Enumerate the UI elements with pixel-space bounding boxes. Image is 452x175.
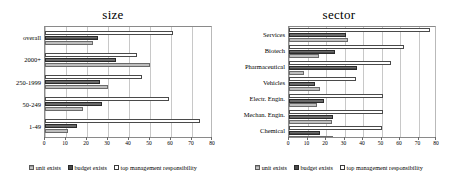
legend-label: top management responsibility [120, 164, 196, 171]
bar-group [45, 93, 211, 115]
bar-group [289, 76, 435, 92]
x-axis-sector: 01020304050607080 [288, 140, 436, 150]
legend-swatch-budget-icon [294, 165, 299, 170]
bar-budget-exists [45, 80, 100, 84]
bar-unit-exists [289, 87, 320, 91]
bar-groups-size [45, 27, 211, 137]
two-panel-bar-chart-figure: size overall2000+250-199950-2491-49 0102… [0, 0, 452, 175]
x-axis-tick-label: 50 [378, 140, 384, 146]
bar-budget-exists [45, 102, 102, 106]
bar-group [45, 115, 211, 137]
bar-budget-exists [45, 36, 98, 40]
legend-swatch-unit-icon [255, 165, 260, 170]
bar-top-management-responsibility [45, 31, 173, 35]
bar-unit-exists [289, 136, 333, 138]
x-axis-tick-label: 10 [62, 140, 68, 146]
category-label: Vehicles [226, 74, 288, 90]
legend-item-top: top management responsibility [114, 164, 197, 171]
plot-area-size [44, 26, 212, 138]
bar-top-management-responsibility [45, 97, 169, 101]
legend-size: unit existsbudget existstop management r… [0, 164, 226, 171]
bar-groups-sector [289, 27, 435, 137]
legend-label: unit exists [262, 164, 287, 171]
category-label: Electr. Engin. [226, 90, 288, 106]
bar-budget-exists [45, 124, 77, 128]
legend-item-unit: unit exists [255, 164, 287, 171]
x-axis-tick-label: 30 [104, 140, 110, 146]
legend-sector: unit existsbudget existstop management r… [226, 164, 452, 171]
legend-item-top: top management responsibility [340, 164, 423, 171]
bar-unit-exists [289, 120, 332, 124]
bar-top-management-responsibility [289, 94, 383, 98]
category-label: Mechan. Engin. [226, 106, 288, 122]
bar-group [289, 109, 435, 125]
bar-group [45, 49, 211, 71]
bar-budget-exists [289, 115, 333, 119]
category-label: 250-1999 [0, 71, 44, 93]
bar-group [289, 43, 435, 59]
bar-budget-exists [289, 82, 315, 86]
bar-unit-exists [45, 129, 68, 133]
bar-budget-exists [289, 66, 357, 70]
bar-top-management-responsibility [45, 53, 137, 57]
legend-item-unit: unit exists [29, 164, 61, 171]
bar-top-management-responsibility [289, 61, 391, 65]
plot-wrap-size: overall2000+250-199950-2491-49 010203040… [0, 26, 226, 144]
bar-budget-exists [289, 99, 324, 103]
x-axis-tick-label: 40 [125, 140, 131, 146]
legend-swatch-top-icon [114, 165, 119, 170]
category-label: 1-49 [0, 116, 44, 138]
bar-budget-exists [45, 58, 116, 62]
category-axis-labels-size: overall2000+250-199950-2491-49 [0, 26, 44, 138]
bar-top-management-responsibility [45, 119, 200, 123]
legend-item-budget: budget exists [294, 164, 333, 171]
panel-title-size: size [0, 6, 226, 24]
bar-unit-exists [45, 41, 93, 45]
bar-budget-exists [289, 33, 346, 37]
x-axis-tick-label: 20 [322, 140, 328, 146]
legend-swatch-top-icon [340, 165, 345, 170]
bar-group [45, 71, 211, 93]
panel-size: size overall2000+250-199950-2491-49 0102… [0, 0, 226, 175]
bar-top-management-responsibility [289, 28, 430, 32]
legend-swatch-unit-icon [29, 165, 34, 170]
x-axis-tick-label: 10 [304, 140, 310, 146]
category-axis-labels-sector: ServicesBiotechPharmaceuticalVehiclesEle… [226, 26, 288, 138]
bar-unit-exists [45, 85, 108, 89]
x-axis-tick-label: 60 [167, 140, 173, 146]
bar-unit-exists [45, 63, 150, 67]
bar-top-management-responsibility [289, 110, 383, 114]
legend-label: top management responsibility [346, 164, 422, 171]
bar-unit-exists [289, 54, 319, 58]
x-axis-tick-label: 80 [433, 140, 439, 146]
panel-title-sector: sector [226, 6, 452, 24]
x-axis-tick-label: 60 [396, 140, 402, 146]
bar-group [289, 60, 435, 76]
x-axis-tick-label: 40 [359, 140, 365, 146]
bar-top-management-responsibility [289, 77, 356, 81]
x-axis-tick-label: 50 [146, 140, 152, 146]
category-label: overall [0, 26, 44, 48]
category-label: Chemical [226, 122, 288, 138]
panel-sector: sector ServicesBiotechPharmaceuticalVehi… [226, 0, 452, 175]
bar-unit-exists [45, 107, 83, 111]
x-axis-tick-label: 70 [188, 140, 194, 146]
legend-label: budget exists [74, 164, 106, 171]
bar-top-management-responsibility [45, 75, 142, 79]
x-axis-tick-label: 80 [209, 140, 215, 146]
bar-unit-exists [289, 71, 304, 75]
legend-swatch-budget-icon [68, 165, 73, 170]
category-label: Pharmaceutical [226, 58, 288, 74]
bar-top-management-responsibility [289, 45, 404, 49]
bar-budget-exists [289, 50, 335, 54]
bar-group [289, 92, 435, 108]
category-label: Services [226, 26, 288, 42]
bar-unit-exists [289, 38, 348, 42]
legend-label: unit exists [36, 164, 61, 171]
bar-unit-exists [289, 103, 317, 107]
plot-area-sector [288, 26, 436, 138]
legend-item-budget: budget exists [68, 164, 107, 171]
x-axis-tick-label: 20 [83, 140, 89, 146]
bar-group [289, 27, 435, 43]
legend-label: budget exists [300, 164, 332, 171]
